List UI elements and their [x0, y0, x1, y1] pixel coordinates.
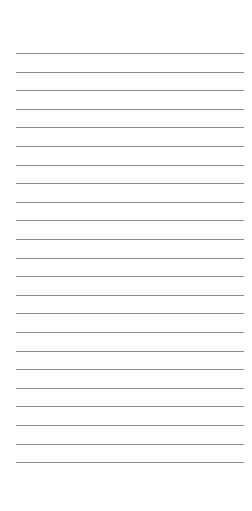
ruled-line — [16, 239, 244, 240]
ruled-line — [16, 351, 244, 352]
ruled-line — [16, 202, 244, 203]
ruled-line — [16, 90, 244, 91]
ruled-line — [16, 276, 244, 277]
ruled-line — [16, 53, 244, 54]
ruled-line — [16, 444, 244, 445]
ruled-line — [16, 109, 244, 110]
ruled-line — [16, 258, 244, 259]
ruled-line — [16, 127, 244, 128]
ruled-line — [16, 425, 244, 426]
ruled-line — [16, 406, 244, 407]
ruled-line — [16, 220, 244, 221]
ruled-line — [16, 462, 244, 463]
ruled-line — [16, 388, 244, 389]
ruled-line — [16, 165, 244, 166]
ruled-line — [16, 295, 244, 296]
ruled-line — [16, 146, 244, 147]
ruled-line — [16, 369, 244, 370]
ruled-line — [16, 72, 244, 73]
lined-paper-sheet — [0, 0, 252, 511]
ruled-line — [16, 183, 244, 184]
ruled-line — [16, 313, 244, 314]
ruled-line — [16, 332, 244, 333]
